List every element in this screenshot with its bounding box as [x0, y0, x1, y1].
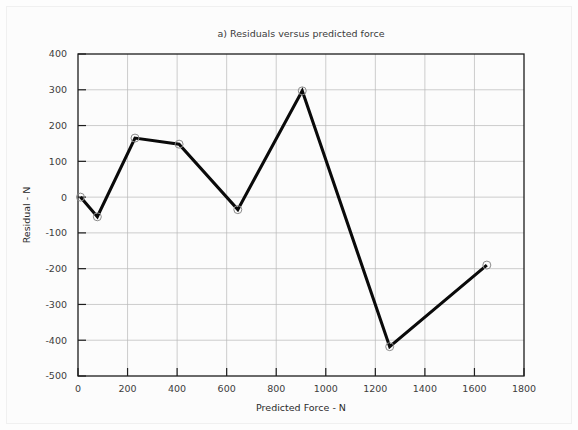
- y-tick-label: -100: [45, 227, 67, 238]
- x-axis-title: Predicted Force - N: [256, 402, 346, 413]
- data-series-group: [76, 87, 490, 351]
- y-axis-tick-labels: 4003002001000-100-200-300-400-500: [45, 48, 67, 381]
- data-point-marker: [175, 140, 183, 148]
- x-tick-label: 800: [267, 383, 285, 394]
- data-point-marker: [386, 343, 394, 351]
- vertical-gridlines: [128, 54, 475, 376]
- data-point-marker: [234, 206, 242, 214]
- data-point-marker: [298, 87, 306, 95]
- y-axis-title: Residual - N: [21, 187, 32, 244]
- x-tick-label: 200: [118, 383, 136, 394]
- residuals-line-chart: a) Residuals versus predicted force 4003…: [0, 0, 578, 430]
- y-tick-label: -500: [45, 370, 67, 381]
- y-axis-tick-marks: [78, 54, 86, 376]
- x-tick-label: 1800: [512, 383, 536, 394]
- x-tick-label: 1600: [462, 383, 486, 394]
- x-tick-label: 1400: [413, 383, 437, 394]
- x-axis-tick-labels: 020040060080010001200140016001800: [75, 383, 536, 394]
- data-point-marker: [483, 261, 491, 269]
- x-tick-label: 1200: [363, 383, 387, 394]
- x-tick-label: 0: [75, 383, 81, 394]
- data-point-marker: [131, 134, 139, 142]
- y-tick-label: -300: [45, 299, 67, 310]
- y-tick-label: 100: [49, 156, 67, 167]
- data-point-marker: [93, 213, 101, 221]
- plot-area-frame: [78, 54, 524, 376]
- chart-title: a) Residuals versus predicted force: [218, 28, 385, 39]
- residual-line: [80, 91, 486, 347]
- y-tick-label: 0: [61, 192, 67, 203]
- y-tick-label: 200: [49, 120, 67, 131]
- y-tick-label: 400: [49, 48, 67, 59]
- x-axis-tick-marks: [78, 368, 524, 376]
- x-tick-label: 600: [218, 383, 236, 394]
- x-tick-label: 400: [168, 383, 186, 394]
- y-tick-label: -200: [45, 263, 67, 274]
- y-tick-label: -400: [45, 335, 67, 346]
- y-tick-label: 300: [49, 84, 67, 95]
- figure-container: a) Residuals versus predicted force 4003…: [0, 0, 578, 430]
- x-tick-label: 1000: [314, 383, 338, 394]
- horizontal-gridlines: [78, 90, 524, 340]
- data-point-marker: [76, 193, 84, 201]
